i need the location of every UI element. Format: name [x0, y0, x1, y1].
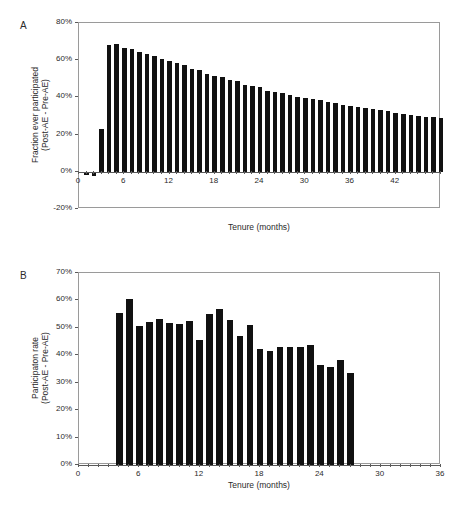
bar [175, 63, 180, 171]
x-tick-mark [118, 464, 119, 467]
bar [327, 367, 334, 465]
x-tick-mark [420, 464, 421, 467]
x-tick-mark [410, 171, 411, 174]
bar [145, 54, 150, 172]
x-tick-mark [289, 464, 290, 467]
bar [258, 87, 263, 171]
y-tick-mark [75, 409, 78, 410]
x-tick-mark [161, 171, 162, 174]
x-tick-mark [78, 464, 79, 467]
x-tick-mark [400, 464, 401, 467]
panel-b: B 70%60%50%40%30%20%10%0% 061218243036 T… [0, 258, 459, 518]
bar [243, 85, 248, 172]
x-tick-mark [334, 171, 335, 174]
panel-b-x-axis-title: Tenure (months) [159, 480, 359, 490]
x-tick-mark [432, 171, 433, 174]
y-tick-label: 10% [38, 433, 72, 441]
x-tick-mark [387, 171, 388, 174]
x-tick-mark [267, 171, 268, 174]
x-tick-mark [440, 464, 441, 467]
bar [197, 70, 202, 171]
x-tick-mark [249, 464, 250, 467]
bar [196, 340, 203, 465]
bar [167, 61, 172, 172]
bar [378, 110, 383, 172]
x-tick-mark [239, 464, 240, 467]
x-tick-mark [128, 464, 129, 467]
x-tick-mark [221, 171, 222, 174]
x-tick-mark [357, 171, 358, 174]
y-tick-mark [75, 299, 78, 300]
x-tick-label: 6 [123, 470, 153, 478]
x-tick-label: 30 [365, 470, 395, 478]
bar [386, 111, 391, 172]
x-tick-mark [209, 464, 210, 467]
bar [152, 56, 157, 172]
bar [220, 77, 225, 172]
x-tick-label: 0 [63, 470, 93, 478]
x-tick-mark [78, 171, 79, 174]
bar [206, 314, 213, 465]
bar [288, 95, 293, 171]
x-tick-mark [370, 464, 371, 467]
x-tick-mark [269, 464, 270, 467]
bar [136, 326, 143, 465]
x-tick-mark [440, 171, 441, 174]
panel-b-y-axis-title-line1: Participaton rate [30, 337, 40, 399]
y-tick-mark [75, 354, 78, 355]
x-tick-label: 6 [108, 177, 138, 185]
bar [137, 52, 142, 172]
x-tick-mark [304, 171, 305, 174]
x-tick-mark [229, 171, 230, 174]
x-tick-mark [219, 464, 220, 467]
x-tick-label: 12 [154, 177, 184, 185]
bar [205, 74, 210, 172]
x-tick-mark [158, 464, 159, 467]
x-tick-mark [350, 171, 351, 174]
x-tick-mark [116, 171, 117, 174]
x-tick-mark [350, 464, 351, 467]
bar [356, 107, 361, 172]
x-tick-mark [309, 464, 310, 467]
bar [176, 324, 183, 465]
y-tick-mark [75, 437, 78, 438]
x-tick-mark [229, 464, 230, 467]
x-tick-mark [199, 171, 200, 174]
x-tick-mark [153, 171, 154, 174]
panel-a-letter: A [20, 20, 27, 31]
panel-b-letter: B [20, 270, 27, 281]
panel-b-bars [79, 273, 439, 463]
x-tick-mark [98, 464, 99, 467]
x-tick-mark [410, 464, 411, 467]
figure-container: A 80%60%40%20%0%-20% 06121824303642 Tenu… [0, 0, 459, 518]
bar [156, 319, 163, 465]
x-tick-mark [259, 171, 260, 174]
panel-a-y-axis-title: Fraction ever participated (Post-AE - Pr… [30, 50, 50, 180]
y-tick-label: 0% [38, 460, 72, 468]
y-tick-label: 80% [38, 18, 72, 26]
x-tick-mark [101, 171, 102, 174]
x-tick-mark [279, 464, 280, 467]
x-tick-mark [430, 464, 431, 467]
panel-a-y-axis-title-line1: Fraction ever participated [30, 67, 40, 163]
bar [347, 373, 354, 465]
x-tick-mark [251, 171, 252, 174]
x-tick-mark [417, 171, 418, 174]
bar [186, 321, 193, 465]
x-tick-mark [169, 464, 170, 467]
x-tick-mark [184, 171, 185, 174]
bar [333, 103, 338, 171]
x-tick-mark [372, 171, 373, 174]
x-tick-label: 36 [425, 470, 455, 478]
bar [190, 69, 195, 172]
bar [311, 99, 316, 172]
x-tick-label: 18 [199, 177, 229, 185]
x-tick-mark [176, 171, 177, 174]
x-tick-label: 18 [244, 470, 274, 478]
x-tick-mark [360, 464, 361, 467]
x-tick-mark [282, 171, 283, 174]
bar [237, 336, 244, 465]
x-tick-mark [108, 171, 109, 174]
x-tick-label: 42 [380, 177, 410, 185]
bar [363, 108, 368, 172]
